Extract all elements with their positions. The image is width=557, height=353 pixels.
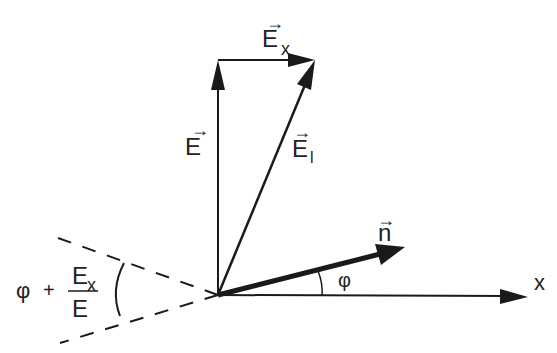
vector-El-arrowhead-icon [297,60,315,90]
cone-angle-arc [116,263,124,316]
formula-plus: + [43,279,55,301]
label-n: n [378,219,391,246]
formula-numerator-subscript: x [87,275,96,295]
label-El: E [292,135,308,162]
vector-n [218,254,380,295]
formula-denominator: E [72,295,88,322]
label-E: E [185,133,201,160]
vector-Ex-arrowhead-icon [288,53,315,67]
formula-numerator: E [72,262,88,289]
label-x-axis: x [534,270,545,295]
vector-n-arrowhead-icon [375,244,405,265]
vector-E-arrowhead-icon [211,60,225,90]
x-axis-arrowhead-icon [500,289,528,304]
label-Ex: E [262,25,278,52]
label-phi: φ [338,269,351,291]
x-axis [218,295,510,296]
label-Ex-subscript: x [281,39,290,59]
polarization-vector-diagram: → E → E x → E l → n φ x φ + E x E [0,0,557,353]
vector-El [218,80,307,295]
label-El-subscript: l [310,149,314,166]
formula-phi: φ [16,278,30,303]
phi-angle-arc [318,271,322,296]
